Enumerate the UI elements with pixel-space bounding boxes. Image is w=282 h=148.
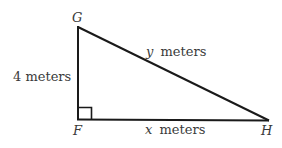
side-label-gh-unit: meters	[161, 44, 207, 59]
side-fh	[77, 120, 269, 121]
right-triangle-diagram: G F H 4 meters y meters x meters	[0, 0, 282, 148]
side-gh	[78, 27, 269, 121]
side-label-fh-unit: meters	[159, 122, 205, 137]
side-label-fh-var: x	[145, 122, 153, 137]
vertex-label-g: G	[72, 10, 82, 25]
vertex-label-h: H	[260, 123, 273, 138]
side-label-gf: 4 meters	[13, 69, 71, 84]
right-angle-marker	[78, 108, 92, 120]
side-label-gh: y meters	[145, 44, 206, 59]
vertex-label-f: F	[72, 123, 83, 138]
side-label-fh: x meters	[145, 122, 205, 137]
side-label-gh-var: y	[145, 44, 154, 59]
